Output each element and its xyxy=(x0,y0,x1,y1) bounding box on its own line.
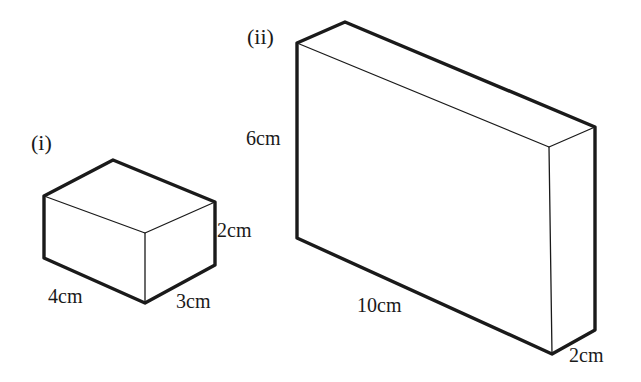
figure-i-length-label: 4cm xyxy=(48,286,82,306)
figure-i-cuboid xyxy=(44,160,215,303)
figure-ii-top-face-edge xyxy=(297,43,595,147)
figure-ii-height-label: 6cm xyxy=(246,128,280,148)
figure-ii-label: (ii) xyxy=(247,26,274,48)
figure-ii-length-label: 10cm xyxy=(357,295,401,315)
figure-i-label: (i) xyxy=(31,132,52,154)
figure-i-height-label: 2cm xyxy=(217,220,251,240)
figure-ii-outline xyxy=(297,22,595,354)
figure-ii-vertical-edge xyxy=(549,147,552,354)
figure-i-outline xyxy=(44,160,215,303)
figure-ii-cuboid xyxy=(297,22,595,354)
figure-ii-depth-label: 2cm xyxy=(569,345,603,365)
cuboid-diagram-canvas xyxy=(0,0,641,382)
figure-i-top-face-edge xyxy=(44,196,215,233)
figure-i-width-label: 3cm xyxy=(176,291,210,311)
